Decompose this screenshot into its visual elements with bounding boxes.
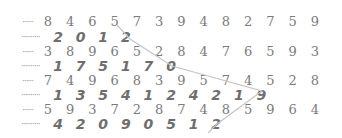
connector-line [0, 0, 342, 138]
